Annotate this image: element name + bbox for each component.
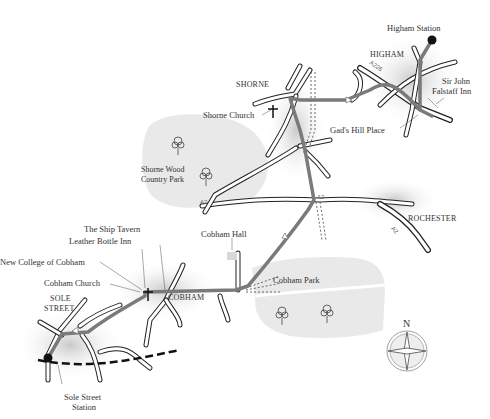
label-higham: HIGHAM (370, 50, 404, 60)
label-leather-bottle-inn: Leather Bottle Inn (69, 236, 131, 246)
shorne-wood-country-park-area (142, 114, 268, 208)
road-label-a2-west: A2 (200, 199, 207, 205)
higham-station-marker (428, 36, 437, 45)
sole-street-station-marker (44, 354, 53, 363)
label-shorne-wood-line1: Shorne Wood (141, 165, 184, 175)
label-cobham-church: Cobham Church (44, 278, 100, 288)
label-cobham: COBHAM (168, 293, 204, 303)
compass-rose (387, 331, 427, 371)
label-sir-john-falstaff-inn-line2: Falstaff Inn (432, 86, 471, 96)
label-the-ship-tavern: The Ship Tavern (84, 224, 140, 234)
compass-north-label: N (403, 319, 410, 329)
label-sole-street-line2: STREET (44, 304, 75, 314)
label-cobham-park: Cobham Park (273, 275, 320, 285)
label-sole-street-station-line2: Station (72, 402, 96, 412)
road-label-a2-junction: A2 (317, 194, 324, 200)
cobham-park-area (252, 257, 385, 338)
label-higham-station: Higham Station (387, 23, 441, 33)
label-new-college-of-cobham: New College of Cobham (0, 257, 85, 267)
label-sir-john-falstaff-inn-line1: Sir John (442, 76, 470, 86)
label-sole-street-line1: SOLE (50, 294, 71, 304)
label-shorne-wood-line2: Country Park (141, 175, 184, 185)
label-cobham-hall: Cobham Hall (201, 229, 247, 239)
cobham-hall-building (227, 252, 237, 260)
route-map (0, 0, 490, 419)
label-rochester: ROCHESTER (408, 214, 456, 224)
label-gads-hill-place: Gad's Hill Place (330, 125, 385, 135)
label-shorne: SHORNE (236, 80, 269, 90)
label-sole-street-station-line1: Sole Street (64, 392, 101, 402)
label-shorne-church: Shorne Church (203, 110, 254, 120)
